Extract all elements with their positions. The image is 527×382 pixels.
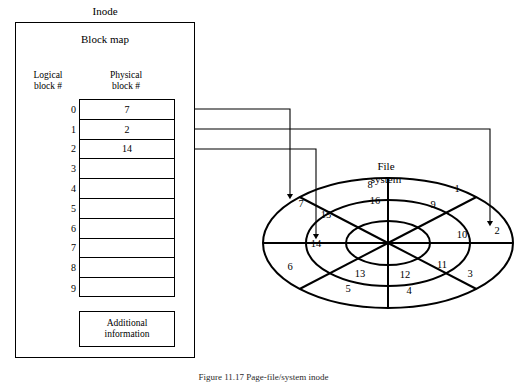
- block-map-row: 07: [80, 100, 174, 120]
- physical-block-header: Physical block #: [84, 70, 168, 92]
- disk-middle-sector-number: 9: [425, 199, 441, 210]
- disk-outer-sector-number: 4: [401, 285, 417, 296]
- logical-block-header-line1: Logical: [22, 70, 74, 81]
- logical-block-header: Logical block #: [22, 70, 74, 92]
- logical-block-number: 6: [56, 219, 76, 238]
- disk-middle-sector-number: 11: [434, 259, 450, 270]
- physical-block-number: 2: [125, 124, 130, 135]
- block-map-row: 214: [80, 140, 174, 160]
- physical-block-header-line2: block #: [84, 81, 168, 92]
- disk-outer-sector-number: 6: [282, 261, 298, 272]
- disk-outer-sector-number: 1: [449, 183, 465, 194]
- logical-block-number: 1: [56, 120, 76, 139]
- logical-block-number: 5: [56, 199, 76, 218]
- disk-outer-sector-number: 8: [362, 179, 378, 190]
- block-map-row: 6: [80, 219, 174, 239]
- physical-block-number: 14: [122, 143, 132, 154]
- file-system-title-line2: system: [336, 173, 436, 186]
- logical-block-number: 0: [56, 100, 76, 119]
- block-map-row: 9: [80, 278, 174, 298]
- logical-block-number: 9: [56, 278, 76, 298]
- block-map-row: 12: [80, 120, 174, 140]
- additional-information-line1: Additional: [105, 318, 150, 330]
- physical-block-header-line1: Physical: [84, 70, 168, 81]
- file-system-title: File system: [336, 160, 436, 185]
- logical-block-number: 7: [56, 239, 76, 258]
- inode-title: Inode: [15, 5, 195, 17]
- figure-caption: Figure 11.17 Page-file/system inode: [0, 372, 527, 382]
- block-map-title: Block map: [15, 33, 195, 45]
- block-map-table: 07122143456789: [79, 99, 175, 297]
- disk-outer-sector-number: 5: [340, 283, 356, 294]
- block-map-row: 4: [80, 179, 174, 199]
- connector-line-14: [175, 149, 316, 236]
- logical-block-number: 4: [56, 179, 76, 198]
- disk-middle-sector-number: 13: [352, 268, 368, 279]
- logical-block-number: 3: [56, 159, 76, 178]
- disk-middle-sector-number: 10: [454, 229, 470, 240]
- logical-block-header-line2: block #: [22, 81, 74, 92]
- figure-canvas: Inode Block map Logical block # Physical…: [0, 0, 527, 382]
- disk-middle-sector-number: 15: [318, 209, 334, 220]
- additional-information-box: Additional information: [79, 311, 175, 347]
- block-map-row: 5: [80, 199, 174, 219]
- additional-information-line2: information: [105, 329, 150, 341]
- disk-outer-sector-number: 3: [462, 268, 478, 279]
- logical-block-number: 8: [56, 258, 76, 277]
- block-map-row: 8: [80, 258, 174, 278]
- disk-middle-sector-number: 14: [308, 238, 324, 249]
- logical-block-number: 2: [56, 140, 76, 159]
- block-map-row: 7: [80, 239, 174, 259]
- disk-middle-sector-number: 12: [397, 269, 413, 280]
- file-system-title-line1: File: [336, 160, 436, 173]
- disk-sector-divider-8: [388, 243, 476, 289]
- disk-middle-sector-number: 16: [367, 195, 383, 206]
- disk-outer-sector-number: 7: [293, 198, 309, 209]
- disk-outer-sector-number: 2: [489, 225, 505, 236]
- block-map-row: 3: [80, 159, 174, 179]
- physical-block-number: 7: [125, 104, 130, 115]
